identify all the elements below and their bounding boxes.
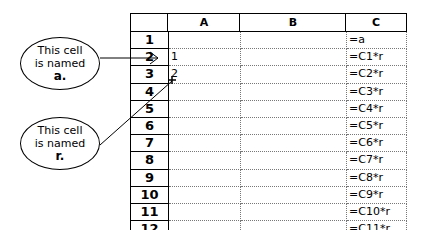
callout-text: This cell <box>21 124 99 137</box>
callout-bubble-a: This cell is named a. <box>20 37 100 90</box>
callout-cell-name: a. <box>54 69 67 83</box>
callout-arrows <box>0 0 429 230</box>
callout-cell-name: r. <box>56 149 65 163</box>
callout-text: This cell <box>21 44 99 57</box>
diagram-canvas: A B C 1=a21=C1*r32=C2*r4=C3*r5=C4*r6=C5*… <box>0 0 429 230</box>
callout-bubble-r: This cell is named r. <box>20 117 100 170</box>
